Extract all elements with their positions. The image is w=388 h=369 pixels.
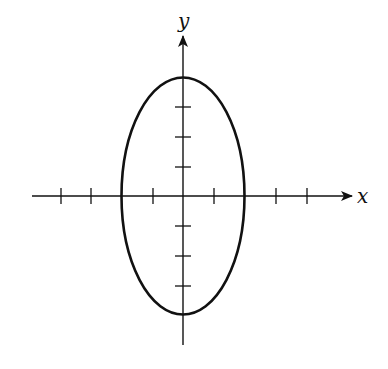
ellipse-diagram: x y [0, 0, 388, 369]
y-axis-label: y [177, 9, 190, 33]
x-axis-label: x [357, 184, 368, 208]
